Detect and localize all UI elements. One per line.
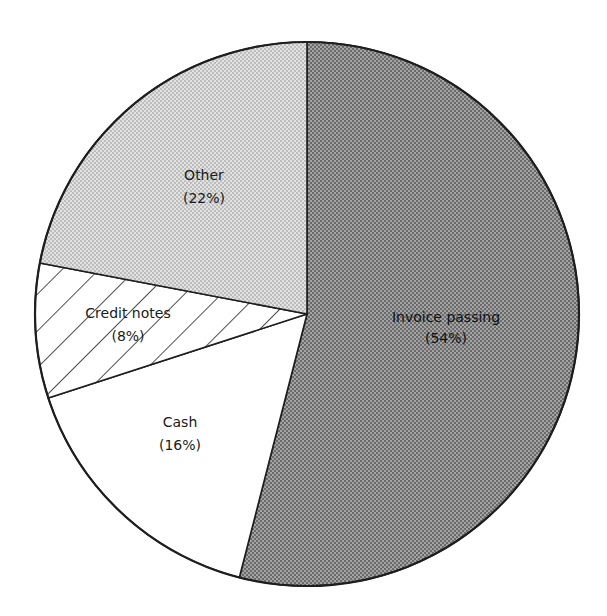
slice-label-credit-notes: Credit notes [85, 305, 170, 321]
slice-label-cash: Cash [163, 414, 198, 430]
slice-label-other: Other [184, 167, 224, 183]
slice-pct-invoice-passing: (54%) [425, 330, 467, 346]
pie-chart: Invoice passing (54%) Cash (16%) Credit … [0, 0, 607, 616]
slice-label-invoice-passing: Invoice passing [392, 309, 500, 325]
slice-pct-other: (22%) [183, 190, 225, 206]
slice-pct-credit-notes: (8%) [111, 328, 144, 344]
slice-pct-cash: (16%) [159, 437, 201, 453]
